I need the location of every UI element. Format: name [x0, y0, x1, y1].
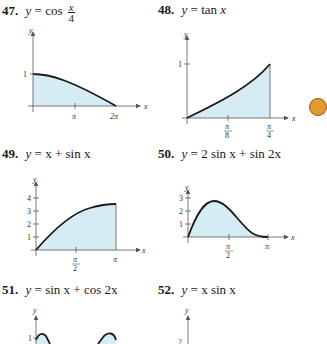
svg-text:π: π [113, 255, 118, 264]
graph-50: y x 1 2 3 π 2 π [179, 183, 295, 260]
svg-text:2: 2 [27, 220, 31, 229]
svg-text:y: y [32, 306, 37, 315]
graph-51: y 1 [28, 306, 116, 344]
x-tick-2pi: 2π [110, 112, 119, 121]
svg-text:x: x [141, 246, 146, 255]
svg-text:π: π [267, 122, 272, 131]
svg-text:2: 2 [73, 264, 77, 273]
graph-47: y x 1 π 2π [23, 26, 148, 121]
margin-icon [309, 98, 327, 116]
svg-text:y: y [184, 306, 189, 315]
svg-text:y: y [183, 30, 188, 39]
svg-text:π: π [73, 255, 78, 264]
graph-52: y 2 [178, 306, 189, 344]
svg-text:4: 4 [27, 194, 31, 203]
svg-text:3: 3 [179, 194, 183, 203]
y-tick-1: 1 [23, 70, 27, 79]
shaded-area [36, 204, 116, 250]
shaded-area [188, 201, 268, 237]
graph-49: y x 1 2 3 4 π 2 π [27, 175, 146, 273]
svg-text:2: 2 [178, 338, 182, 344]
shaded-area [187, 64, 270, 118]
svg-text:x: x [291, 114, 296, 123]
svg-text:y: y [184, 183, 189, 192]
y-axis-label: y [28, 26, 33, 35]
svg-text:y: y [32, 175, 37, 184]
svg-text:1: 1 [27, 233, 31, 242]
svg-text:π: π [226, 242, 231, 251]
graph-48: y x 1 π 8 π 4 [178, 30, 296, 140]
shaded-area [33, 74, 116, 106]
svg-text:x: x [290, 233, 295, 242]
x-tick-pi: π [72, 112, 77, 121]
svg-text:8: 8 [225, 131, 229, 140]
x-axis-label: x [143, 102, 148, 111]
svg-text:π: π [265, 242, 270, 251]
svg-text:1: 1 [28, 334, 32, 343]
svg-text:3: 3 [27, 207, 31, 216]
svg-text:1: 1 [178, 60, 182, 69]
svg-text:π: π [225, 122, 230, 131]
svg-text:2: 2 [226, 251, 230, 260]
svg-text:2: 2 [179, 207, 183, 216]
svg-text:1: 1 [179, 220, 183, 229]
svg-text:4: 4 [267, 131, 271, 140]
